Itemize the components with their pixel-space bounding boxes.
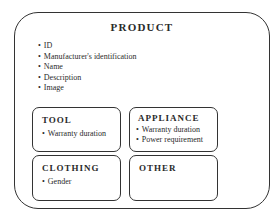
appliance-subtype-box: APPLIANCE Warranty duration Power requir…	[129, 107, 218, 152]
attribute-item: Warranty duration	[42, 129, 106, 139]
other-title: OTHER	[139, 163, 177, 173]
attribute-item: Image	[38, 83, 137, 94]
product-supertype-box: PRODUCT ID Manufacturer's identification…	[14, 12, 270, 209]
appliance-title: APPLIANCE	[138, 113, 200, 123]
attribute-item: Name	[38, 62, 137, 73]
clothing-attribute-list: Gender	[42, 177, 71, 187]
attribute-item: Power requirement	[136, 135, 203, 145]
attribute-item: Manufacturer's identification	[38, 52, 137, 63]
other-subtype-box: OTHER	[129, 155, 218, 201]
attribute-item: ID	[38, 41, 137, 52]
appliance-attribute-list: Warranty duration Power requirement	[136, 125, 203, 145]
tool-title: TOOL	[42, 115, 72, 125]
clothing-title: CLOTHING	[42, 163, 100, 173]
product-attribute-list: ID Manufacturer's identification Name De…	[38, 41, 137, 94]
attribute-item: Description	[38, 73, 137, 84]
tool-attribute-list: Warranty duration	[42, 129, 106, 139]
tool-subtype-box: TOOL Warranty duration	[32, 107, 121, 152]
product-title: PRODUCT	[15, 21, 269, 33]
clothing-subtype-box: CLOTHING Gender	[32, 155, 121, 201]
attribute-item: Gender	[42, 177, 71, 187]
attribute-item: Warranty duration	[136, 125, 203, 135]
